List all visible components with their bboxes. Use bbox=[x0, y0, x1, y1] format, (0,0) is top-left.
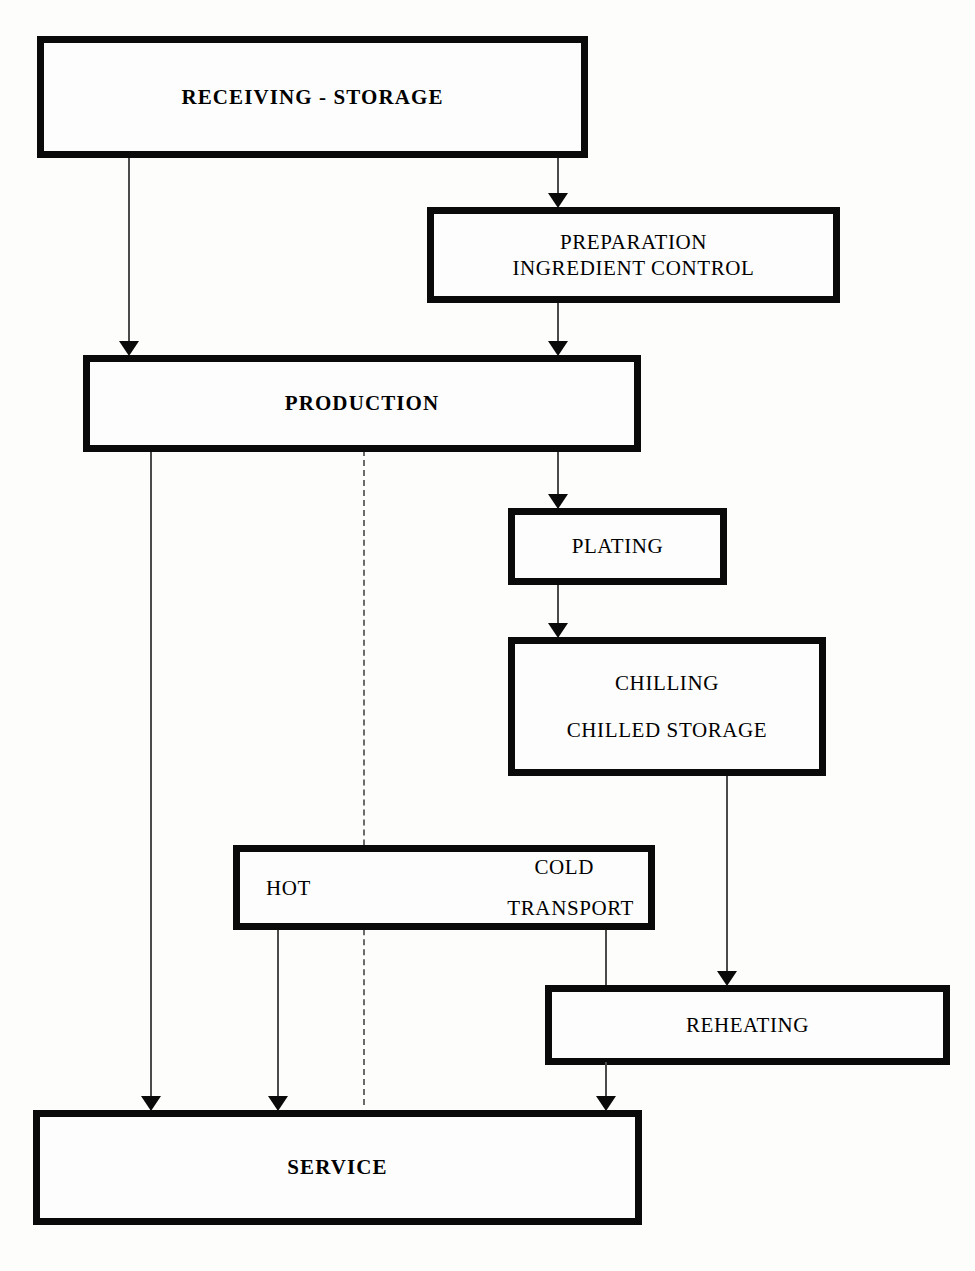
arrowhead-production-to-plating bbox=[548, 494, 568, 509]
arrowhead-preparation-to-production bbox=[548, 341, 568, 356]
node-hot-cold-transport[interactable]: HOT COLD TRANSPORT bbox=[233, 845, 655, 930]
node-preparation-label-line1: PREPARATION bbox=[442, 230, 825, 254]
node-preparation-content: PREPARATION INGREDIENT CONTROL bbox=[434, 230, 833, 280]
node-service[interactable]: SERVICE bbox=[33, 1110, 642, 1225]
connector-receiving-to-preparation bbox=[557, 155, 559, 193]
connector-preparation-to-production bbox=[557, 300, 559, 341]
node-reheating-content: REHEATING bbox=[552, 1013, 943, 1037]
connector-chilling-to-reheating bbox=[726, 774, 728, 971]
arrowhead-receiving-to-preparation bbox=[548, 193, 568, 208]
connector-production-to-plating bbox=[557, 450, 559, 494]
connector-production-to-service-dashed bbox=[363, 450, 365, 1105]
node-plating-content: PLATING bbox=[515, 534, 720, 558]
node-production[interactable]: PRODUCTION bbox=[83, 355, 641, 452]
arrowhead-transport-hot-to-service bbox=[268, 1096, 288, 1111]
node-service-content: SERVICE bbox=[40, 1155, 635, 1179]
arrowhead-receiving-to-production bbox=[119, 341, 139, 356]
node-receiving-storage-content: RECEIVING - STORAGE bbox=[44, 85, 581, 109]
node-preparation-label-line2: INGREDIENT CONTROL bbox=[442, 256, 825, 280]
node-reheating[interactable]: REHEATING bbox=[545, 985, 950, 1065]
node-receiving-storage[interactable]: RECEIVING - STORAGE bbox=[37, 36, 588, 158]
node-service-label: SERVICE bbox=[48, 1155, 627, 1179]
flowchart-canvas: RECEIVING - STORAGE PREPARATION INGREDIE… bbox=[0, 0, 975, 1271]
node-transport-label-transport: TRANSPORT bbox=[507, 896, 634, 921]
connector-transport-cold-to-reheating bbox=[605, 928, 607, 988]
node-plating[interactable]: PLATING bbox=[508, 508, 727, 585]
arrowhead-reheating-to-service bbox=[596, 1096, 616, 1111]
node-production-label: PRODUCTION bbox=[98, 391, 626, 415]
node-preparation-ingredient-control[interactable]: PREPARATION INGREDIENT CONTROL bbox=[427, 207, 840, 303]
node-plating-label: PLATING bbox=[523, 534, 712, 558]
node-reheating-label: REHEATING bbox=[560, 1013, 935, 1037]
node-production-content: PRODUCTION bbox=[90, 391, 634, 415]
connector-plating-to-chilling bbox=[557, 583, 559, 623]
node-receiving-storage-label: RECEIVING - STORAGE bbox=[52, 85, 573, 109]
node-transport-content: HOT COLD TRANSPORT bbox=[240, 852, 648, 923]
node-transport-label-cold: COLD bbox=[534, 855, 594, 880]
connector-receiving-to-production bbox=[128, 155, 130, 341]
connector-production-to-service bbox=[150, 450, 152, 1096]
arrowhead-chilling-to-reheating bbox=[717, 971, 737, 986]
node-transport-label-hot: HOT bbox=[266, 875, 311, 900]
arrowhead-plating-to-chilling bbox=[548, 623, 568, 638]
node-chilling-chilled-storage[interactable]: CHILLING CHILLED STORAGE bbox=[508, 637, 826, 776]
node-chilling-content: CHILLING CHILLED STORAGE bbox=[515, 671, 819, 741]
arrowhead-production-to-service bbox=[141, 1096, 161, 1111]
node-chilling-label-line2: CHILLED STORAGE bbox=[523, 718, 811, 742]
node-chilling-label-line1: CHILLING bbox=[523, 671, 811, 695]
connector-transport-hot-to-service bbox=[277, 928, 279, 1096]
connector-reheating-to-service bbox=[605, 1062, 607, 1096]
